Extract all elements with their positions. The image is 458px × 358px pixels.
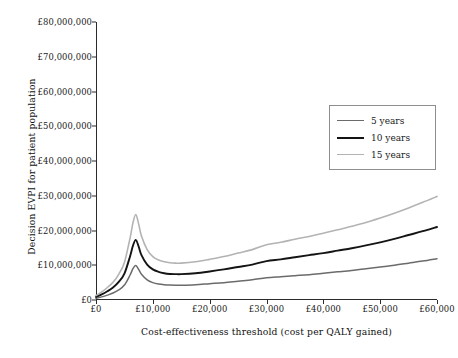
- x-tick-label: £0: [91, 304, 102, 314]
- x-tick-label: £20,000: [192, 304, 227, 314]
- x-tick-mark: [380, 300, 381, 304]
- y-tick-mark: [92, 161, 96, 162]
- x-tick-label: £40,000: [306, 304, 341, 314]
- y-tick-mark: [92, 22, 96, 23]
- x-tick-label: £50,000: [362, 304, 397, 314]
- y-tick-mark: [92, 126, 96, 127]
- x-tick-mark: [96, 300, 97, 304]
- x-tick-mark: [153, 300, 154, 304]
- y-tick-mark: [92, 56, 96, 57]
- y-tick-mark: [92, 230, 96, 231]
- x-tick-label: £60,000: [419, 304, 454, 314]
- x-tick-mark: [437, 300, 438, 304]
- y-tick-mark: [92, 300, 96, 301]
- x-tick-label: £10,000: [135, 304, 170, 314]
- legend-swatch-icon: [337, 137, 364, 139]
- legend-label: 5 years: [371, 116, 404, 126]
- legend-swatch-icon: [337, 120, 364, 121]
- legend-swatch-icon: [337, 154, 364, 155]
- x-tick-mark: [210, 300, 211, 304]
- legend-label: 15 years: [371, 150, 410, 160]
- x-tick-mark: [267, 300, 268, 304]
- legend-item: 15 years: [337, 146, 427, 163]
- y-axis-title: Decision EVPI for patient population: [26, 52, 37, 282]
- legend-item: 5 years: [337, 112, 427, 129]
- x-tick-label: £30,000: [249, 304, 284, 314]
- legend: 5 years10 years15 years: [329, 105, 436, 170]
- x-tick-mark: [323, 300, 324, 304]
- legend-label: 10 years: [371, 133, 410, 143]
- x-axis-title: Cost-effectiveness threshold (cost per Q…: [96, 326, 437, 337]
- evpi-line-chart: £0£10,000,000£20,000,000£30,000,000£40,0…: [0, 0, 458, 358]
- series-line: [96, 227, 437, 297]
- y-tick-mark: [92, 91, 96, 92]
- y-tick-mark: [92, 195, 96, 196]
- y-tick-mark: [92, 265, 96, 266]
- legend-item: 10 years: [337, 129, 427, 146]
